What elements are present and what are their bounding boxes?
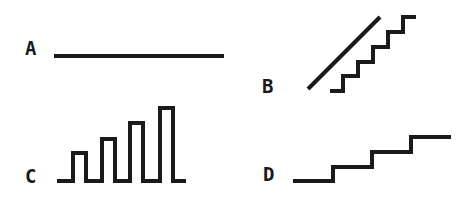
panel-c-waveform xyxy=(57,108,186,181)
panel-b-waveform xyxy=(308,17,416,91)
panel-b-label: B xyxy=(262,77,273,96)
panel-d-waveform xyxy=(293,137,451,181)
panel-d-label: D xyxy=(263,165,274,184)
waveform-canvas xyxy=(0,0,467,198)
panel-a-label: A xyxy=(25,39,36,58)
panel-c-label: C xyxy=(25,167,36,186)
